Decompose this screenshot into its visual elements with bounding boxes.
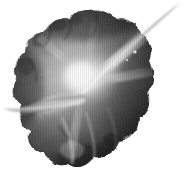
image-canvas: Grayscale lobed organic form with lumino… bbox=[0, 0, 184, 179]
organic-form-illustration bbox=[0, 0, 184, 179]
